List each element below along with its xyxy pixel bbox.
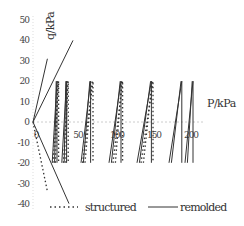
y-tick-labels: 50403020100-10-20-30-40: [18, 15, 31, 209]
cycle-path: [171, 81, 181, 163]
y-axis-label: q/kPa: [44, 11, 57, 40]
legend-remolded-label: remolded: [180, 201, 227, 214]
y-tick-label: -10: [18, 138, 31, 148]
y-tick-label: 50: [20, 15, 31, 25]
cycle-path: [83, 81, 93, 163]
x-tick-label: 200: [184, 130, 199, 140]
x-tick-label: 50: [73, 130, 84, 140]
y-tick-label: -30: [18, 179, 31, 189]
x-axis-label: P/kPa: [207, 97, 237, 110]
y-tick-label: -20: [18, 158, 31, 168]
loading-path: [33, 59, 47, 122]
y-tick-label: -40: [18, 199, 31, 209]
x-tick-label: 150: [147, 130, 162, 140]
legend-structured-label: structured: [85, 201, 137, 214]
y-tick-label: 30: [20, 56, 31, 66]
y-tick-label: 40: [20, 35, 31, 45]
cycle-path: [187, 81, 192, 163]
series-structured: [33, 81, 153, 191]
y-tick-label: 20: [20, 76, 31, 86]
chart-plot: 50403020100-10-20-30-40 050100150200 q/k…: [0, 0, 244, 226]
y-tick-label: 0: [24, 117, 30, 127]
legend: structured remolded: [50, 201, 227, 214]
y-tick-label: 10: [20, 97, 31, 107]
chart-container: 50403020100-10-20-30-40 050100150200 q/k…: [0, 0, 244, 226]
